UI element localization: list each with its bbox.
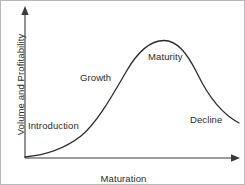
stage-label-introduction: Introduction: [28, 120, 79, 131]
stage-label-maturity: Maturity: [148, 51, 183, 62]
stage-label-decline: Decline: [190, 114, 222, 125]
product-life-cycle-chart: Volume and Profitability Maturation Intr…: [0, 0, 245, 185]
x-axis-arrowhead: [231, 154, 240, 161]
life-cycle-curve: [25, 41, 239, 158]
stage-label-growth: Growth: [80, 72, 111, 83]
y-axis-label: Volume and Profitability: [15, 25, 26, 145]
chart-canvas: [1, 1, 245, 185]
x-axis-label: Maturation: [1, 173, 245, 184]
y-axis-arrowhead: [21, 6, 28, 15]
